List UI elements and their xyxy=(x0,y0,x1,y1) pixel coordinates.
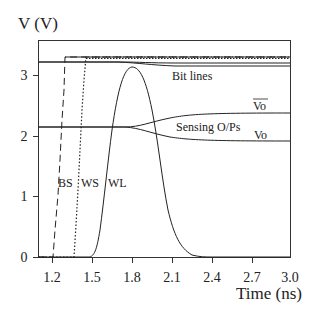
x-tick-1.8: 1.8 xyxy=(123,270,141,285)
x-axis-title: Time (ns) xyxy=(236,284,302,303)
x-tick-1.2: 1.2 xyxy=(43,270,61,285)
series-vo-bar xyxy=(39,113,291,127)
x-tick-2.7: 2.7 xyxy=(243,270,261,285)
label-vo-bar: Vo xyxy=(253,99,266,113)
label-vo: Vo xyxy=(254,128,267,142)
y-tick-0: 0 xyxy=(21,250,28,265)
x-tick-3.0: 3.0 xyxy=(281,270,299,285)
label-sensing: Sensing O/Ps xyxy=(176,120,241,134)
y-axis-title: V (V) xyxy=(18,14,58,33)
label-ws: WS xyxy=(81,176,99,190)
label-bit-lines: Bit lines xyxy=(172,69,213,83)
y-tick-3: 3 xyxy=(21,68,28,83)
x-tick-1.5: 1.5 xyxy=(83,270,101,285)
x-tick-2.4: 2.4 xyxy=(203,270,221,285)
chart: 0 1 2 3 1.2 1.5 1.8 2.1 2.4 2.7 3.0 V (V… xyxy=(0,0,316,317)
y-tick-1: 1 xyxy=(21,189,28,204)
x-tick-2.1: 2.1 xyxy=(163,270,181,285)
label-bs: BS xyxy=(58,176,73,190)
y-axis-ticks xyxy=(33,76,39,258)
series-ws xyxy=(39,57,291,257)
label-wl: WL xyxy=(108,176,127,190)
y-tick-2: 2 xyxy=(21,129,28,144)
series-vo xyxy=(39,127,291,141)
series-bs xyxy=(39,57,291,257)
